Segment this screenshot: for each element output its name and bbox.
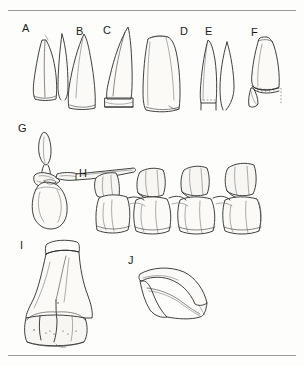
figure-c-tooth [105,27,133,107]
figure-j-ungual [139,268,207,319]
figure-label-j: J [128,254,134,266]
figure-i-limb-bone [25,240,93,347]
figure-plate: A B C D E F G H I J [0,0,304,366]
figure-e-tooth [200,40,234,110]
figure-label-c: C [103,24,111,36]
figure-label-f: F [251,26,258,38]
figure-label-g: G [18,122,27,134]
figure-a-tooth [33,34,68,101]
figure-d-tooth [143,36,180,112]
figure-label-b: B [76,25,84,37]
plate-artwork [0,0,304,366]
figure-label-d: D [180,25,188,37]
figure-label-e: E [205,25,213,37]
figure-f-tooth [249,37,281,107]
figure-label-i: I [20,239,23,251]
figure-label-h: H [79,167,87,179]
figure-b-tooth [68,34,95,110]
figure-label-a: A [22,22,30,34]
